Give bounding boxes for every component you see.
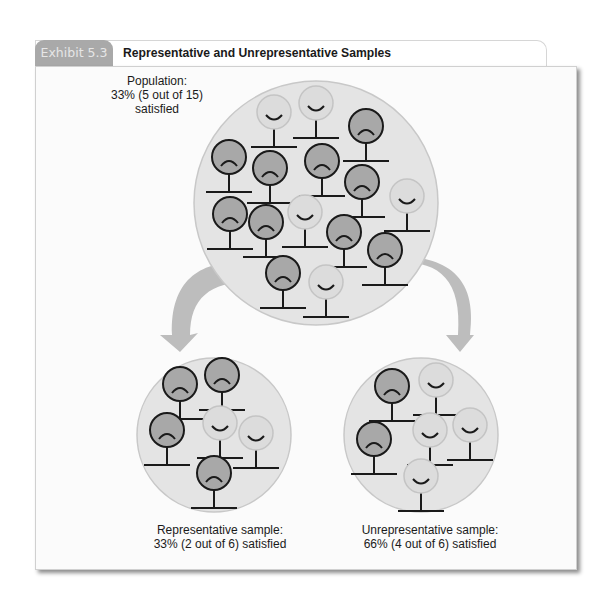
representative-sample-group <box>137 358 291 512</box>
population-group <box>194 81 438 325</box>
unrepresentative-sample-group <box>344 358 498 512</box>
unrepresentative-caption-title: Unrepresentative sample: <box>350 523 510 537</box>
population-caption: Population: 33% (5 out of 15) satisfied <box>92 74 222 116</box>
population-caption-title: Population: <box>92 74 222 88</box>
population-caption-label: satisfied <box>92 102 222 116</box>
unrepresentative-sample-caption: Unrepresentative sample: 66% (4 out of 6… <box>350 523 510 551</box>
representative-caption-stat: 33% (2 out of 6) satisfied <box>140 537 300 551</box>
population-caption-stat: 33% (5 out of 15) <box>92 88 222 102</box>
representative-sample-caption: Representative sample: 33% (2 out of 6) … <box>140 523 300 551</box>
unrepresentative-caption-stat: 66% (4 out of 6) satisfied <box>350 537 510 551</box>
representative-caption-title: Representative sample: <box>140 523 300 537</box>
